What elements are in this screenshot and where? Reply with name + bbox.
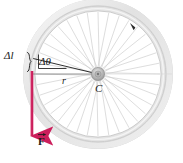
spoke — [100, 20, 129, 68]
spoke — [98, 13, 109, 68]
spoke — [67, 80, 96, 128]
spoke — [67, 20, 94, 69]
delta-l-label: Δl — [4, 50, 14, 61]
force-label: F — [38, 135, 45, 147]
force-label-wrap: F — [38, 136, 45, 147]
force-vector — [31, 71, 32, 136]
center-label: C — [95, 83, 102, 94]
delta-theta-label: Δθ — [39, 56, 51, 67]
wheel-diagram-svg — [0, 0, 183, 163]
vector-arrow-overbar-icon — [38, 132, 46, 136]
force-vector-label-group: F — [38, 136, 45, 147]
radius-label: r — [62, 76, 66, 86]
spoke — [102, 78, 129, 127]
bicycle-wheel-figure: Δl Δθ r C F — [0, 0, 183, 163]
valve-stem-icon — [130, 23, 135, 30]
hub — [91, 67, 104, 80]
